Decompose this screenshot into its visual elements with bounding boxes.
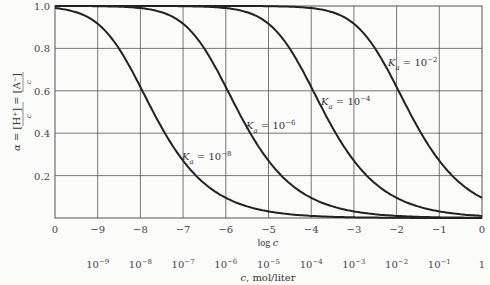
x2-tick-label: 1 — [479, 259, 485, 270]
x2-tick-label: 10−4 — [300, 258, 324, 270]
y-tick-label: 0.8 — [34, 43, 50, 54]
x-tick-label: −2 — [389, 224, 404, 235]
x2-tick-label: 10−2 — [385, 258, 408, 270]
curve-label: Ka = 10−6 — [245, 119, 296, 135]
curve-label: Ka = 10−8 — [181, 150, 231, 166]
y-axis-label: α = [H+] = [A−] c c — [11, 72, 34, 151]
x2-tick-label: 10−1 — [428, 258, 451, 270]
x-tick-label: −6 — [218, 224, 233, 235]
x-tick-label: −3 — [347, 224, 362, 235]
svg-text:c: c — [25, 80, 33, 84]
x-axis-label: log c — [258, 237, 279, 248]
x-tick-label: −8 — [133, 224, 148, 235]
x-tick-label: −5 — [261, 224, 276, 235]
x2-tick-label: 10−3 — [342, 258, 365, 270]
y-tick-label: 0.2 — [34, 171, 50, 182]
svg-text:c: c — [25, 114, 33, 118]
x2-axis-label: c, mol/liter — [240, 272, 295, 283]
alpha-vs-concentration-chart: 0.20.40.60.81.0 0−9−8−7−6−5−4−3−2−10 10−… — [0, 0, 490, 285]
x2-tick-label: 10−9 — [86, 258, 109, 270]
x2-tick-label: 10−8 — [129, 258, 152, 270]
x-tick-label: 0 — [52, 224, 58, 235]
x-tick-label: −9 — [90, 224, 105, 235]
x2-axis-ticks: 10−910−810−710−610−510−410−310−210−11 — [86, 258, 485, 270]
grid — [55, 6, 482, 218]
y-axis-ticks: 0.20.40.60.81.0 — [34, 1, 50, 182]
y-tick-label: 1.0 — [34, 1, 50, 12]
x-tick-label: −4 — [304, 224, 319, 235]
y-tick-label: 0.4 — [34, 128, 50, 139]
x-tick-label: −1 — [432, 224, 447, 235]
x2-tick-label: 10−5 — [257, 258, 280, 270]
x-axis-ticks: 0−9−8−7−6−5−4−3−2−10 — [52, 224, 485, 235]
curve-label: Ka = 10−4 — [320, 95, 371, 111]
curve-label: Ka = 10−2 — [387, 56, 437, 72]
curve-labels: Ka = 10−8Ka = 10−6Ka = 10−4Ka = 10−2 — [181, 56, 437, 166]
x2-tick-label: 10−6 — [214, 258, 238, 270]
svg-text:α = [H+] = [A−]: α = [H+] = [A−] — [11, 73, 23, 151]
x2-tick-label: 10−7 — [172, 258, 195, 270]
y-tick-label: 0.6 — [34, 86, 50, 97]
x-tick-label: 0 — [479, 224, 485, 235]
x-tick-label: −7 — [176, 224, 191, 235]
